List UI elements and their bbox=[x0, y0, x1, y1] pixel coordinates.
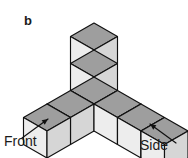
label-side: Side bbox=[140, 137, 168, 153]
cube-figure-panel: FrontSide b bbox=[0, 0, 188, 158]
isometric-cube-diagram: FrontSide b bbox=[0, 0, 188, 158]
label-front: Front bbox=[4, 133, 37, 149]
panel-label-b: b bbox=[24, 13, 32, 28]
